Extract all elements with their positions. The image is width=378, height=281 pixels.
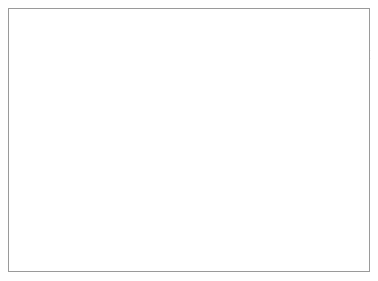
figure-frame: Ureters [0,0,378,281]
anatomical-illustration: Ureters [0,0,378,281]
ureters-label: Ureters [28,183,79,197]
efferent-staple-collar [218,47,264,69]
